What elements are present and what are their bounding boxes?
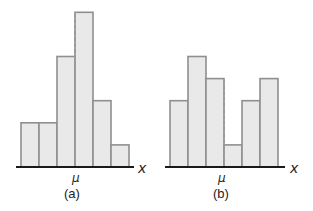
histogram-bar	[188, 57, 206, 168]
histogram-bar	[170, 101, 188, 167]
panel-a-mean-label: μ	[71, 171, 80, 185]
panel-b-histogram	[170, 57, 278, 168]
histogram-bar	[21, 123, 39, 167]
panel-a-axis-label: x	[137, 160, 147, 176]
histogram-bar	[57, 57, 75, 168]
histogram-bar	[206, 79, 224, 167]
histogram-bar	[93, 101, 111, 167]
panel-b-mean-label: μ	[217, 171, 226, 185]
panel-b-caption: (b)	[213, 186, 229, 201]
figure: x μ (a) x μ (b)	[0, 0, 313, 211]
histogram-bar	[111, 145, 129, 167]
panel-a-caption: (a)	[64, 186, 80, 201]
histogram-bar	[260, 79, 278, 167]
histogram-bar	[224, 145, 242, 167]
panel-b-axis-label: x	[289, 160, 299, 176]
panel-a-histogram	[21, 12, 129, 167]
histogram-bar	[242, 101, 260, 167]
histogram-bar	[39, 123, 57, 167]
histogram-bar	[75, 12, 93, 167]
